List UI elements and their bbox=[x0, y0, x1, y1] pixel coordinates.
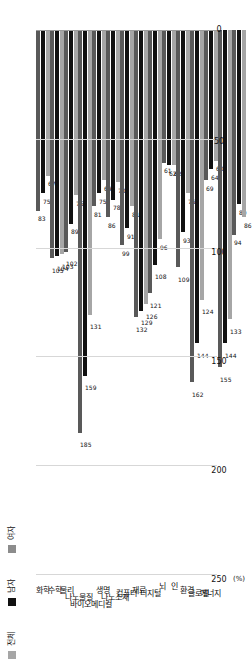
legend-swatch-icon bbox=[8, 598, 16, 606]
bar-group: 1099375 bbox=[176, 30, 190, 574]
bar-전체[interactable] bbox=[120, 30, 124, 245]
gridline bbox=[36, 356, 217, 357]
bar-row: 78 bbox=[111, 30, 115, 574]
bar-남자[interactable] bbox=[41, 30, 45, 193]
category-label-cell: 화학 bbox=[36, 577, 48, 671]
bar-남자[interactable] bbox=[55, 30, 59, 256]
category-label-cell: 수학 bbox=[48, 577, 60, 671]
bar-group: 999181 bbox=[120, 30, 134, 574]
bar-row: 162 bbox=[190, 30, 194, 574]
bar-남자[interactable] bbox=[83, 30, 87, 376]
bar-row: 75 bbox=[97, 30, 101, 574]
category-label: 인 bbox=[171, 582, 178, 591]
bar-row: 105 bbox=[50, 30, 54, 574]
bar-전체[interactable] bbox=[36, 30, 40, 211]
category-label: 뇌 bbox=[159, 582, 166, 591]
bar-전체[interactable] bbox=[92, 30, 96, 206]
bar-row: 86 bbox=[106, 30, 110, 574]
category-label: 에너지 bbox=[200, 589, 221, 598]
value-axis-tick: 100 bbox=[211, 249, 226, 258]
bar-row: 185 bbox=[78, 30, 82, 574]
bar-전체[interactable] bbox=[176, 30, 180, 267]
bar-남자[interactable] bbox=[195, 30, 199, 343]
value-axis: 050100150200250 bbox=[219, 30, 245, 575]
bar-chart: 전체남자여자 화학수학물리나노물질바이오메디컬생명나노소재컴퓨터재료디지털뇌인환… bbox=[0, 0, 251, 671]
bar-전체[interactable] bbox=[204, 30, 208, 180]
bar-남자[interactable] bbox=[69, 30, 73, 224]
legend-swatch-icon bbox=[8, 651, 16, 659]
value-axis-tick: 150 bbox=[211, 358, 226, 367]
category-label-cell: 물리 bbox=[60, 577, 72, 671]
bar-전체[interactable] bbox=[78, 30, 82, 433]
category-label-cell: 바이오메디컬 bbox=[84, 577, 96, 671]
category-label-cell: 나노물질 bbox=[72, 577, 84, 671]
bar-row: 91 bbox=[125, 30, 129, 574]
bar-전체[interactable] bbox=[64, 30, 68, 252]
category-label: 디지털 bbox=[140, 589, 161, 598]
bar-row: 132 bbox=[134, 30, 138, 574]
bar-row: 89 bbox=[69, 30, 73, 574]
bar-row: 109 bbox=[176, 30, 180, 574]
bar-row: 64 bbox=[209, 30, 213, 574]
bar-row: 93 bbox=[181, 30, 185, 574]
gridline bbox=[36, 465, 217, 466]
bar-전체[interactable] bbox=[50, 30, 54, 258]
legend-label: 전체 bbox=[8, 632, 16, 646]
rotated-chart-wrapper: 전체남자여자 화학수학물리나노물질바이오메디컬생명나노소재컴퓨터재료디지털뇌인환… bbox=[0, 0, 251, 671]
bar-group: 696460 bbox=[204, 30, 218, 574]
bar-group: 132129126 bbox=[134, 30, 148, 574]
bar-row: 61 bbox=[162, 30, 166, 574]
bar-남자[interactable] bbox=[167, 30, 171, 165]
legend-swatch-icon bbox=[8, 545, 16, 553]
bar-group: 867870 bbox=[106, 30, 120, 574]
bar-row: 81 bbox=[92, 30, 96, 574]
bar-value-label: 86 bbox=[244, 223, 251, 229]
axis-unit-label: (%) bbox=[233, 575, 245, 583]
bar-row: 83 bbox=[36, 30, 40, 574]
legend-label: 여자 bbox=[8, 526, 16, 540]
value-axis-tick: 50 bbox=[214, 137, 224, 146]
bar-row: 129 bbox=[139, 30, 143, 574]
legend-item[interactable]: 남자 bbox=[8, 579, 16, 606]
bar-row: 104 bbox=[55, 30, 59, 574]
bar-남자[interactable] bbox=[209, 30, 213, 169]
bar-전체[interactable] bbox=[106, 30, 110, 217]
bar-남자[interactable] bbox=[139, 30, 143, 311]
bar-row: 121 bbox=[148, 30, 152, 574]
bar-row: 159 bbox=[83, 30, 87, 574]
legend-item[interactable]: 여자 bbox=[8, 526, 16, 553]
gridline bbox=[36, 139, 217, 140]
bar-남자[interactable] bbox=[111, 30, 115, 200]
bar-전체[interactable] bbox=[162, 30, 166, 163]
bar-전체[interactable] bbox=[134, 30, 138, 317]
gridline bbox=[36, 574, 217, 575]
gridline bbox=[36, 30, 217, 31]
bar-row: 99 bbox=[120, 30, 124, 574]
bar-남자[interactable] bbox=[97, 30, 101, 193]
bar-row: 108 bbox=[153, 30, 157, 574]
bar-row: 69 bbox=[204, 30, 208, 574]
bar-group: 837567 bbox=[36, 30, 50, 574]
bar-group: 105104103 bbox=[50, 30, 64, 574]
legend-label: 남자 bbox=[8, 579, 16, 593]
bar-남자[interactable] bbox=[153, 30, 157, 265]
bar-row: 144 bbox=[195, 30, 199, 574]
bar-group: 616262 bbox=[162, 30, 176, 574]
bar-row: 75 bbox=[41, 30, 45, 574]
chart-legend: 전체남자여자 bbox=[8, 526, 16, 659]
legend-item[interactable]: 전체 bbox=[8, 632, 16, 659]
bar-전체[interactable] bbox=[190, 30, 194, 383]
category-label-cell: 생명 bbox=[96, 577, 108, 671]
bar-group: 817569 bbox=[92, 30, 106, 574]
category-axis-labels: 화학수학물리나노물질바이오메디컬생명나노소재컴퓨터재료디지털뇌인환경글로벌에너지 bbox=[36, 577, 217, 671]
category-label-cell: 디지털 bbox=[145, 577, 157, 671]
value-axis-tick: 0 bbox=[216, 26, 221, 35]
bar-row: 102 bbox=[64, 30, 68, 574]
bar-row: 62 bbox=[167, 30, 171, 574]
bar-전체[interactable] bbox=[148, 30, 152, 293]
bar-group: 162144124 bbox=[190, 30, 204, 574]
bar-남자[interactable] bbox=[125, 30, 129, 228]
bar-group: 185159131 bbox=[78, 30, 92, 574]
plot-area: 8375671051041031028976185159131817569867… bbox=[36, 30, 217, 575]
bar-남자[interactable] bbox=[181, 30, 185, 232]
